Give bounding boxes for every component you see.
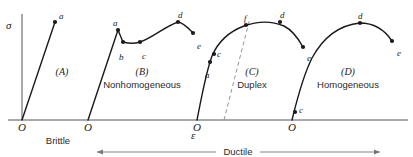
data-point-b [121, 40, 125, 44]
data-point-e [301, 45, 305, 49]
region-tag-b: (B) [136, 67, 149, 77]
point-label-d: d [178, 11, 183, 20]
point-label-a: a [113, 19, 118, 28]
point-label-d: d [280, 11, 285, 20]
point-label-e: e [307, 54, 311, 63]
point-label-a: a [59, 12, 64, 21]
data-point-f [244, 23, 248, 27]
data-point-a [116, 28, 120, 32]
range-label-ductile: Ductile [219, 147, 256, 157]
data-point-d [176, 20, 180, 24]
data-point-c [138, 40, 142, 44]
stress-axis-label: σ [6, 20, 11, 31]
data-point-a [208, 60, 212, 64]
point-label-c: c [142, 52, 146, 61]
point-label-d: d [358, 12, 363, 21]
point-label-c: c [299, 106, 303, 115]
data-point-e [191, 31, 195, 35]
data-point-d [278, 20, 282, 24]
point-label-e: e [197, 42, 201, 51]
origin-label-3: O [193, 122, 201, 133]
region-name-duplex: Duplex [237, 80, 267, 90]
ductile-arrow-left-head [97, 149, 103, 154]
point-label-f: f [244, 14, 247, 23]
point-label-b: b [119, 53, 124, 62]
data-point-c [293, 110, 297, 114]
region-tag-c: (C) [245, 67, 258, 77]
range-label-brittle: Brittle [46, 136, 70, 146]
region-tag-a: (A) [56, 67, 69, 77]
origin-label-2: O [84, 122, 92, 133]
ductile-arrow-right-head [374, 149, 380, 154]
point-label-a: a [205, 71, 210, 80]
region-name-homogeneous: Homogeneous [317, 80, 379, 90]
origin-label-1: O [18, 122, 26, 133]
region-tag-d: (D) [341, 67, 355, 77]
curve-a-brittle [22, 22, 55, 120]
data-point-c [212, 52, 216, 56]
data-point-d [358, 21, 362, 25]
region-name-nonhomogeneous: Nonhomogeneous [103, 80, 181, 90]
point-label-e: e [397, 49, 401, 58]
stress-strain-figure: σ ε aabcdeacfdecdeOOOO(A)(B)Nonhomogeneo… [0, 0, 413, 157]
point-label-c: c [217, 50, 221, 59]
origin-label-4: O [288, 122, 296, 133]
data-point-a [53, 20, 57, 24]
data-point-e [390, 39, 394, 43]
